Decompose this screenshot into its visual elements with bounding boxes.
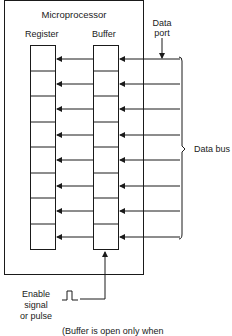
microprocessor-box [5,1,144,275]
enable-label-3: or pulse [16,311,56,321]
caption: (Buffer is open only when [62,326,163,336]
data-port-label-2: port [148,28,176,38]
enable-label-1: Enable [16,289,56,299]
enable-line [80,252,105,299]
data-port-label-1: Data [148,18,176,28]
microprocessor-title: Microprocessor [4,10,144,20]
buffer-label: Buffer [92,29,116,39]
buffer-column [93,46,119,250]
register-label: Register [25,29,59,39]
data-bus-label: Data bus [194,144,230,154]
bus-to-buffer-arrows [120,59,180,237]
pulse-icon [62,291,78,300]
buffer-to-register-arrows [57,59,93,237]
enable-label-2: signal [16,300,56,310]
register-column [30,46,56,250]
